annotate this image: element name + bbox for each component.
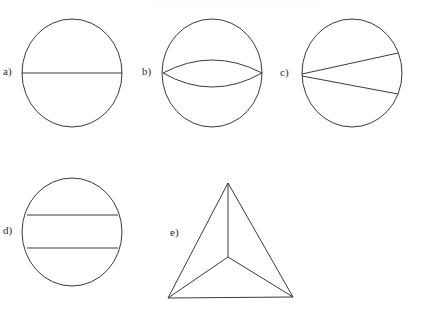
figure-d-label: d) (3, 224, 13, 237)
figure-c-lower-chord (302, 76, 398, 94)
figure-e: e) (168, 183, 293, 298)
figure-b-upper-lens-arc (163, 60, 262, 73)
figure-d-circle (22, 178, 122, 286)
figure-b: b) (142, 19, 262, 127)
figure-c-label: c) (280, 66, 289, 79)
figure-e-triangle (168, 183, 293, 298)
geometric-figures-canvas: a) b) c) d) e) (0, 0, 427, 313)
figure-e-label: e) (170, 226, 179, 239)
figure-a-label: a) (3, 65, 12, 78)
figure-page: a) b) c) d) e) (0, 0, 427, 313)
figure-e-spoke-to-bottom-right (228, 257, 293, 297)
figure-e-spoke-to-bottom-left (168, 257, 228, 298)
figure-b-label: b) (142, 65, 152, 78)
figure-b-circle (162, 19, 262, 127)
figure-d: d) (3, 178, 122, 286)
figure-c-upper-chord (302, 53, 398, 74)
figure-b-lower-lens-arc (163, 73, 262, 87)
figure-c-circle (302, 19, 402, 127)
figure-a: a) (3, 19, 122, 127)
figure-c: c) (280, 19, 402, 127)
